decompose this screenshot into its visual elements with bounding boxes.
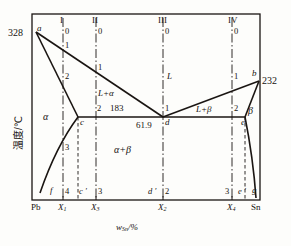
xtick-label-x4: X4 (227, 203, 236, 212)
point-label-c: c (80, 118, 84, 127)
eutectic-composition-label: 61.9 (136, 121, 152, 130)
eutectic-temperature-label: 183 (110, 104, 124, 113)
sn-melting-temperature-label: 232 (262, 76, 277, 86)
stage-marker-III-1: 1 (165, 104, 169, 113)
phase-diagram-figure: 温度/℃ wSn/% Pb X1 X3 X2 X4 Sn I II III IV… (0, 0, 291, 246)
stage-marker-I-0: 0 (65, 27, 69, 36)
point-label-d: d (165, 118, 170, 127)
stage-marker-III-2: 2 (165, 187, 169, 196)
stage-marker-IV-2: 2 (234, 104, 238, 113)
stage-marker-I-3: 3 (65, 143, 69, 152)
stage-marker-IV-3: 3 (225, 187, 229, 196)
stage-marker-II-2: 2 (97, 104, 101, 113)
phase-label-liquid: L (167, 72, 172, 81)
xtick-label-x2: X2 (158, 203, 167, 212)
stage-marker-I-2: 2 (65, 72, 69, 81)
phase-label-liquid-beta: L+β (196, 105, 212, 114)
stage-marker-IV-1: 1 (234, 72, 238, 81)
stage-marker-I-1: 1 (65, 41, 69, 50)
phase-label-beta: β (248, 106, 253, 116)
x-axis-label: wSn/% (116, 222, 138, 232)
alloy-line-label-IV: IV (228, 16, 238, 25)
y-axis-label: 温度/℃ (10, 116, 25, 150)
point-label-b: b (252, 69, 257, 78)
phase-label-liquid-alpha: L+α (98, 89, 114, 98)
xtick-label-x1-sub: 1 (64, 206, 67, 212)
alloy-line-label-III: III (158, 16, 167, 25)
stage-marker-III-0: 0 (165, 27, 169, 36)
point-label-f: f (50, 186, 53, 195)
point-label-e-prime: e ′ (238, 187, 246, 196)
point-label-c-prime: c ′ (79, 187, 87, 196)
xtick-label-x2-sub: 2 (164, 206, 167, 212)
xtick-label-x3-sub: 3 (97, 206, 100, 212)
solvus-alpha (40, 117, 78, 193)
point-label-g: g (252, 186, 257, 195)
stage-marker-I-4: 4 (65, 187, 69, 196)
stage-marker-II-3: 3 (98, 187, 102, 196)
stage-marker-II-1: 1 (98, 63, 102, 72)
xtick-label-sn: Sn (251, 203, 261, 212)
phase-label-alpha-beta: α+β (114, 145, 131, 155)
xtick-label-x1: X1 (58, 203, 67, 212)
stage-marker-II-0: 0 (98, 27, 102, 36)
x-axis-label-unit: /% (128, 222, 138, 232)
alloy-line-label-II: II (92, 16, 98, 25)
phase-label-alpha: α (43, 112, 48, 122)
point-label-d-prime: d ′ (148, 187, 156, 196)
pb-melting-temperature-label: 328 (8, 28, 23, 38)
point-label-e: e (241, 118, 245, 127)
xtick-label-pb: Pb (31, 203, 41, 212)
xtick-label-x4-sub: 4 (233, 206, 236, 212)
point-label-a: a (37, 24, 42, 33)
xtick-label-x3: X3 (91, 203, 100, 212)
solidus-alpha (36, 32, 78, 117)
alloy-line-label-I: I (60, 16, 63, 25)
stage-marker-IV-0: 0 (234, 27, 238, 36)
